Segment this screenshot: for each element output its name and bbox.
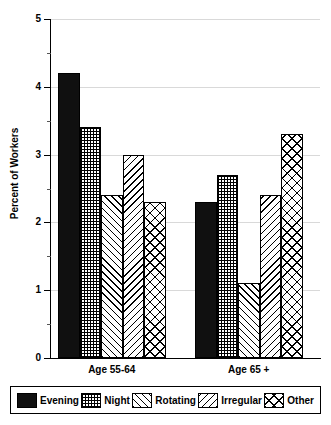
y-tick-label: 3 [21, 150, 41, 160]
legend-item-evening[interactable]: Evening [17, 393, 79, 408]
x-axis-group-label: Age 55-64 [52, 364, 172, 376]
bar-chart: Percent of Workers 012345 Age 55-64Age 6… [0, 0, 331, 425]
legend-label: Other [287, 395, 314, 406]
bar-night-1 [217, 175, 239, 358]
y-axis-title: Percent of Workers [9, 114, 20, 234]
plot-area [51, 19, 320, 358]
legend-item-night[interactable]: Night [81, 393, 130, 408]
y-tick-major [44, 290, 51, 291]
legend-item-rotating[interactable]: Rotating [132, 393, 196, 408]
y-tick-major [44, 222, 51, 223]
bar-irregular-0 [123, 155, 145, 358]
legend-label: Irregular [221, 395, 262, 406]
y-tick-label: 0 [21, 353, 41, 363]
y-tick-major [44, 358, 51, 359]
legend: EveningNightRotatingIrregularOther [10, 386, 321, 414]
bar-rotating-1 [238, 283, 260, 358]
y-tick-major [44, 19, 51, 20]
y-tick-major [44, 87, 51, 88]
y-tick-label: 4 [21, 82, 41, 92]
legend-swatch-icon [132, 393, 152, 408]
bar-other-1 [281, 134, 303, 358]
bar-irregular-1 [260, 195, 282, 358]
bar-evening-0 [58, 73, 80, 358]
legend-swatch-icon [264, 393, 284, 408]
legend-label: Night [104, 395, 130, 406]
legend-swatch-icon [81, 393, 101, 408]
bar-other-0 [144, 202, 166, 358]
y-tick-label: 2 [21, 217, 41, 227]
legend-item-other[interactable]: Other [264, 393, 314, 408]
y-tick-label: 1 [21, 285, 41, 295]
legend-swatch-icon [198, 393, 218, 408]
legend-item-irregular[interactable]: Irregular [198, 393, 262, 408]
bar-rotating-0 [101, 195, 123, 358]
legend-label: Evening [40, 395, 79, 406]
y-tick-major [44, 155, 51, 156]
x-axis-line [50, 358, 321, 359]
legend-swatch-icon [17, 393, 37, 408]
x-axis-group-label: Age 65 + [189, 364, 309, 376]
y-tick-label: 5 [21, 14, 41, 24]
legend-label: Rotating [155, 395, 196, 406]
bar-night-0 [80, 127, 102, 358]
bar-evening-1 [195, 202, 217, 358]
